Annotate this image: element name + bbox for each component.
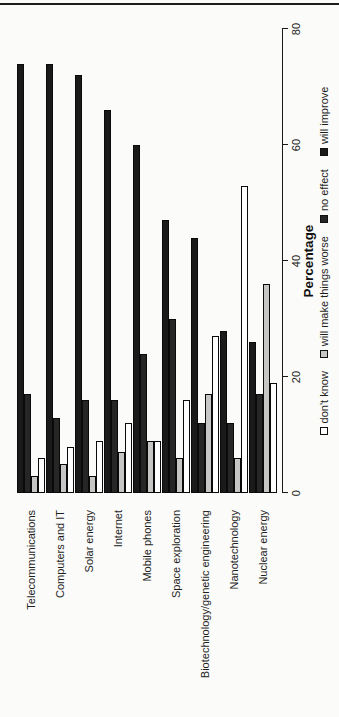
bar-no-effect <box>111 400 118 493</box>
bar-no-effect <box>82 400 89 493</box>
bar-will-improve <box>104 110 111 493</box>
bar-don-t-know <box>183 400 190 493</box>
legend-swatch-icon <box>320 350 328 358</box>
bar-don-t-know <box>241 186 248 493</box>
legend-swatch-icon <box>320 148 328 156</box>
bar-will-improve <box>75 75 82 493</box>
bar-will-improve <box>46 64 53 493</box>
bar-will-improve <box>220 331 227 493</box>
bar-will-make-things-worse <box>60 464 67 493</box>
bar-will-make-things-worse <box>31 476 38 493</box>
bar-will-make-things-worse <box>176 458 183 493</box>
bar-no-effect <box>256 394 263 493</box>
x-axis-tick <box>282 260 288 261</box>
category-label: Solar energy <box>82 510 96 710</box>
bar-will-improve <box>162 220 169 493</box>
bar-no-effect <box>198 423 205 493</box>
bar-will-make-things-worse <box>234 458 241 493</box>
legend-swatch-icon <box>320 215 328 223</box>
category-label: Telecommunications <box>24 510 38 710</box>
category-label: Biotechnology/genetic engineering <box>198 510 212 710</box>
bar-chart: TelecommunicationsComputers and ITSolar … <box>0 0 339 717</box>
legend: don't knowwill make things worseno effec… <box>318 29 330 493</box>
bar-no-effect <box>227 423 234 493</box>
legend-label: will improve <box>318 87 330 144</box>
category-label: Mobile phones <box>140 510 154 710</box>
category-label: Internet <box>111 510 125 710</box>
category-label: Space exploration <box>169 510 183 710</box>
x-axis-tick-label: 60 <box>290 125 302 165</box>
legend-item: will make things worse <box>318 236 330 358</box>
page: TelecommunicationsComputers and ITSolar … <box>0 0 339 717</box>
x-axis-title: Percentage <box>301 191 316 331</box>
x-axis-tick <box>282 144 288 145</box>
bar-will-make-things-worse <box>263 284 270 493</box>
bar-no-effect <box>53 418 60 493</box>
legend-item: no effect <box>318 169 330 223</box>
category-label: Computers and IT <box>53 510 67 710</box>
bar-will-improve <box>249 342 256 493</box>
bar-will-improve <box>17 64 24 493</box>
bar-don-t-know <box>125 423 132 493</box>
bar-don-t-know <box>212 336 219 493</box>
bar-no-effect <box>140 354 147 493</box>
x-axis-tick-label: 0 <box>290 473 302 513</box>
bar-will-improve <box>133 145 140 493</box>
bar-no-effect <box>24 394 31 493</box>
bar-will-improve <box>191 238 198 493</box>
bar-will-make-things-worse <box>147 441 154 493</box>
bar-will-make-things-worse <box>205 394 212 493</box>
bar-don-t-know <box>38 458 45 493</box>
bar-don-t-know <box>154 441 161 493</box>
legend-label: no effect <box>318 169 330 211</box>
x-axis-tick-label: 20 <box>290 357 302 397</box>
bar-don-t-know <box>96 441 103 493</box>
bar-don-t-know <box>67 447 74 493</box>
legend-label: will make things worse <box>318 236 330 346</box>
x-axis-tick <box>282 492 288 493</box>
legend-swatch-icon <box>320 427 328 435</box>
legend-item: don't know <box>318 371 330 435</box>
legend-label: don't know <box>318 371 330 423</box>
category-label: Nanotechnology <box>227 510 241 710</box>
bar-will-make-things-worse <box>118 452 125 493</box>
bar-will-make-things-worse <box>89 476 96 493</box>
bar-no-effect <box>169 319 176 493</box>
x-axis-tick <box>282 28 288 29</box>
category-label: Nuclear energy <box>256 510 270 710</box>
x-axis-tick <box>282 376 288 377</box>
legend-item: will improve <box>318 87 330 156</box>
bar-don-t-know <box>270 383 277 493</box>
x-axis-tick-label: 80 <box>290 9 302 49</box>
